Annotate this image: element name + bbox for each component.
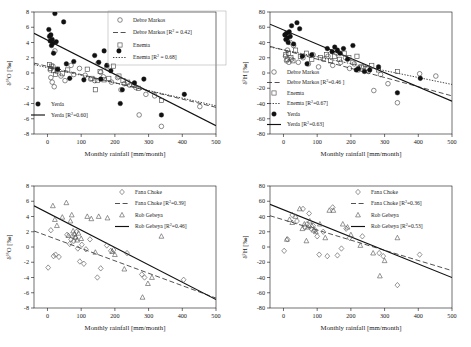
y-tick-label: -8	[24, 130, 29, 137]
legend-label: Rob Gebeya	[371, 212, 399, 218]
data-point	[296, 60, 301, 65]
data-point	[36, 102, 41, 107]
data-point	[159, 234, 164, 239]
data-point	[75, 246, 80, 251]
data-point	[71, 59, 76, 64]
y-tick-label: -60	[257, 115, 265, 122]
legend-label: Yerda [R2=0.63]	[287, 120, 324, 128]
y-tick-label: 0	[26, 243, 29, 250]
data-point	[345, 57, 350, 62]
y-tick-label: 80	[259, 8, 265, 15]
data-point	[98, 77, 103, 82]
regression-line	[34, 65, 216, 106]
data-point	[287, 30, 292, 35]
y-tick-label: -40	[257, 274, 265, 281]
data-point	[288, 34, 293, 39]
data-point	[55, 223, 60, 228]
data-point	[295, 20, 300, 25]
data-point	[159, 113, 164, 118]
data-point	[111, 64, 115, 68]
data-point	[51, 51, 56, 56]
data-point	[304, 238, 309, 243]
y-tick-label: 0	[262, 69, 265, 76]
data-point	[272, 70, 277, 75]
data-point	[96, 214, 101, 219]
y-tick-label: 6	[26, 197, 29, 204]
data-point	[305, 62, 310, 67]
data-point	[52, 84, 57, 89]
data-point	[323, 235, 328, 240]
y-tick-label: 60	[259, 23, 265, 30]
data-point	[309, 52, 314, 57]
data-point	[285, 48, 290, 53]
plot-frame	[34, 186, 216, 308]
data-point	[105, 63, 110, 68]
data-point	[341, 46, 346, 51]
y-tick-label: 8	[26, 182, 29, 189]
y-tick-label: 20	[259, 54, 265, 61]
data-point	[356, 212, 361, 217]
legend-label: Fana Choke [R2=0.36]	[371, 199, 422, 207]
x-tick-label: 400	[178, 138, 187, 145]
data-point	[64, 62, 69, 67]
data-point	[360, 234, 365, 239]
data-point	[146, 281, 151, 286]
x-axis-title: Monthly rainfall [mm/month]	[85, 324, 166, 332]
data-point	[65, 232, 70, 237]
data-point	[82, 78, 87, 83]
data-point	[118, 101, 123, 106]
data-point	[182, 92, 187, 97]
data-point	[198, 104, 203, 109]
legend: Debre MarkosDebre Markos [R2 = 0.42]Enem…	[108, 11, 226, 65]
x-tick-label: 200	[346, 312, 355, 319]
x-tick-label: 500	[447, 312, 456, 319]
data-point	[92, 53, 97, 58]
x-tick-label: 400	[414, 312, 423, 319]
data-point	[79, 236, 84, 241]
legend-label: Rob Gebeya [R2=0.46]	[135, 222, 187, 230]
data-point	[118, 18, 123, 23]
x-tick-label: 300	[144, 312, 153, 319]
data-point	[120, 87, 125, 92]
isotope-rainfall-figure: 0100200300400500-8-6-4-202468δ18O [‰]Mon…	[0, 0, 471, 347]
data-point	[47, 27, 52, 32]
x-tick-label: 200	[346, 138, 355, 145]
panel-top-left: 0100200300400500-8-6-4-202468δ18O [‰]Mon…	[0, 0, 235, 173]
y-tick-label: 80	[259, 182, 265, 189]
data-point	[120, 189, 125, 194]
legend-label: Rob Gebeya [R2=0.53]	[371, 222, 423, 230]
legend-label: Enemta [R2 = 0.68]	[133, 53, 177, 61]
x-tick-label: 300	[380, 312, 389, 319]
y-tick-label: 0	[262, 243, 265, 250]
data-point	[83, 73, 88, 78]
data-point	[362, 69, 367, 74]
x-tick-label: 300	[144, 138, 153, 145]
legend-label: Debre Markos [R2=0.46 ]	[287, 78, 345, 86]
legend-label: Debre Markos	[133, 17, 165, 23]
x-tick-label: 500	[211, 312, 220, 319]
data-point	[77, 66, 82, 71]
data-point	[381, 253, 386, 258]
plot-frame	[270, 186, 452, 308]
data-point	[118, 43, 122, 47]
legend-label: Yerda [R2=0.60]	[51, 110, 88, 118]
x-tick-label: 400	[414, 138, 423, 145]
data-point	[297, 26, 302, 31]
data-point	[355, 54, 359, 58]
data-point	[272, 91, 276, 95]
y-tick-label: -80	[257, 304, 265, 311]
y-tick-label: -40	[257, 100, 265, 107]
data-point	[386, 81, 391, 86]
legend-label: Rob Gebeya	[135, 212, 163, 218]
data-point	[338, 51, 343, 56]
y-tick-label: 4	[26, 39, 29, 46]
y-axis-title: δ18O [‰]	[5, 234, 14, 259]
data-point	[310, 57, 314, 61]
data-point	[85, 67, 89, 71]
y-tick-label: -2	[24, 84, 29, 91]
data-point	[150, 275, 155, 280]
data-point	[109, 68, 114, 73]
data-point	[326, 54, 331, 59]
y-tick-label: -2	[24, 258, 29, 265]
data-point	[142, 77, 147, 82]
